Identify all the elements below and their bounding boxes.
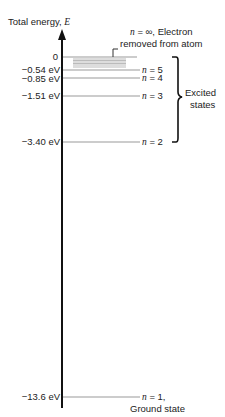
- axis-label: Total energy, E: [8, 17, 70, 28]
- continuum-lines: [73, 59, 126, 67]
- pointer-line: [113, 49, 118, 57]
- energy-label-3: −1.51 eV: [22, 91, 60, 101]
- top-label-line1: n = ∞, Electron: [130, 27, 192, 38]
- excited-label-line2: states: [190, 100, 215, 110]
- energy-diagram-graphics: [0, 0, 225, 417]
- n-label-2: n = 2: [142, 137, 163, 148]
- n-label-3: n = 3: [142, 91, 163, 102]
- ground-state-label: Ground state: [130, 404, 185, 414]
- excited-states-bracket: [172, 57, 182, 142]
- energy-label-0: 0: [53, 52, 58, 62]
- energy-label-4: −0.85 eV: [22, 74, 60, 84]
- top-label-line2: removed from atom: [120, 39, 202, 49]
- excited-label-line1: Excited: [185, 88, 216, 98]
- n-label-4: n = 4: [142, 73, 163, 84]
- n-label-1: n = 1,: [142, 392, 166, 403]
- energy-label-2: −3.40 eV: [22, 137, 60, 147]
- energy-label-1: −13.6 eV: [22, 392, 60, 402]
- axis-arrow-icon: [58, 29, 66, 40]
